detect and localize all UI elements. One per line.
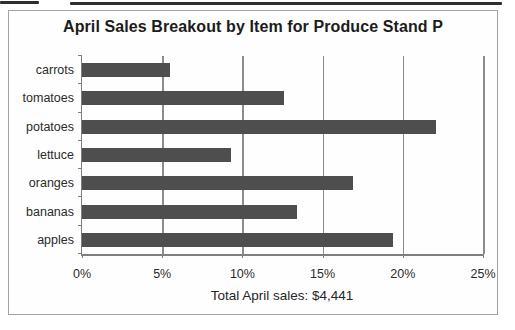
x-tick-label: 15% — [301, 267, 345, 281]
x-tick-label: 0% — [60, 267, 104, 281]
x-tick-label: 10% — [220, 267, 264, 281]
x-axis-tick — [323, 254, 324, 258]
total-sales-annotation: Total April sales: $4,441 — [81, 288, 483, 303]
bar-row-tomatoes — [82, 84, 483, 112]
category-label-oranges: oranges — [10, 169, 74, 197]
bar-bananas — [82, 205, 297, 219]
bar-oranges — [82, 176, 353, 190]
x-axis-tick — [242, 254, 243, 258]
category-label-potatoes: potatoes — [10, 113, 74, 141]
scan-artifact-line-left — [0, 1, 39, 4]
chart-title: April Sales Breakout by Item for Produce… — [9, 18, 497, 36]
bar-row-lettuce — [82, 141, 483, 169]
x-axis-tick — [483, 254, 484, 258]
y-axis-tick — [78, 83, 82, 84]
bar-series — [82, 56, 483, 254]
y-axis-tick — [78, 140, 82, 141]
x-tick-label: 25% — [461, 267, 505, 281]
bar-row-oranges — [82, 169, 483, 197]
category-label-carrots: carrots — [10, 56, 74, 84]
category-label-lettuce: lettuce — [10, 141, 74, 169]
scan-artifact-line-right — [70, 2, 502, 5]
y-axis-tick — [78, 168, 82, 169]
y-axis-tick — [78, 253, 82, 254]
x-tick-label: 20% — [381, 267, 425, 281]
bar-row-bananas — [82, 197, 483, 225]
y-axis-tick — [78, 112, 82, 113]
x-axis-tick — [162, 254, 163, 258]
bar-row-apples — [82, 226, 483, 254]
y-axis-tick — [78, 55, 82, 56]
x-axis-tick — [82, 254, 83, 258]
bar-apples — [82, 233, 393, 247]
x-tick-label: 5% — [140, 267, 184, 281]
category-label-bananas: bananas — [10, 197, 74, 225]
y-axis-tick — [78, 225, 82, 226]
gridline-25% — [483, 56, 485, 254]
bar-row-carrots — [82, 56, 483, 84]
bar-lettuce — [82, 148, 231, 162]
category-label-tomatoes: tomatoes — [10, 84, 74, 112]
y-axis-tick — [78, 196, 82, 197]
bar-row-potatoes — [82, 113, 483, 141]
bar-potatoes — [82, 120, 436, 134]
bar-carrots — [82, 63, 170, 77]
plot-area: carrotstomatoespotatoeslettuceorangesban… — [81, 56, 483, 256]
x-axis-tick — [403, 254, 404, 258]
bar-tomatoes — [82, 91, 284, 105]
category-axis-labels: carrotstomatoespotatoeslettuceorangesban… — [10, 56, 74, 254]
chart-frame: April Sales Breakout by Item for Produce… — [8, 10, 498, 315]
category-label-apples: apples — [10, 226, 74, 254]
